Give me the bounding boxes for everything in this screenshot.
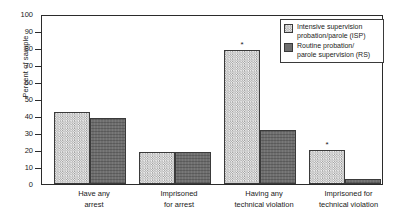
y-tick-90: 90 [0, 27, 41, 37]
legend-label-line2: parole supervision (RS) [297, 51, 370, 60]
y-tick-label: 50 [25, 95, 33, 105]
y-tick-label: 80 [25, 44, 33, 54]
y-tick-70: 70 [0, 61, 41, 71]
y-tick-30: 30 [0, 129, 41, 139]
bar-isp-2 [224, 50, 260, 184]
x-label-1: Imprisoned for arrest [134, 188, 224, 210]
legend-label-rs: Routine probation/ parole supervision (R… [297, 42, 370, 59]
bar-rs-3 [345, 179, 381, 184]
x-label-line2: for arrest [134, 199, 224, 210]
bar-isp-0 [54, 112, 90, 184]
y-tick-label: 100 [20, 10, 33, 20]
y-tick-label: 0 [29, 180, 33, 190]
legend-label-line1: Routine probation/ [297, 42, 354, 49]
legend-item-isp: Intensive supervision probation/parole (… [284, 23, 380, 40]
bar-rs-2 [260, 130, 296, 184]
significance-marker: * [309, 142, 345, 148]
x-axis-labels: Have any arrest Imprisoned for arrest Ha… [41, 188, 383, 222]
significance-marker: * [224, 42, 260, 48]
y-tick-100: 100 [0, 10, 41, 20]
bar-rs-0 [90, 118, 126, 184]
y-tick-10: 10 [0, 163, 41, 173]
x-label-line1: Imprisoned [160, 189, 197, 198]
legend-swatch-isp-icon [284, 24, 293, 33]
y-tick-label: 60 [25, 78, 33, 88]
y-tick-0: 0 [0, 180, 41, 190]
y-tick-label: 40 [25, 112, 33, 122]
bar-isp-3 [309, 150, 345, 184]
y-tick-20: 20 [0, 146, 41, 156]
x-label-3: Imprisoned for technical violation [296, 188, 398, 210]
x-label-line1: Imprisoned for [325, 189, 373, 198]
y-tick-50: 50 [0, 95, 41, 105]
x-label-line2: arrest [49, 199, 139, 210]
x-label-line1: Having any [245, 189, 283, 198]
y-tick-label: 10 [25, 163, 33, 173]
legend-item-rs: Routine probation/ parole supervision (R… [284, 42, 380, 59]
x-label-0: Have any arrest [49, 188, 139, 210]
x-label-line1: Have any [78, 189, 110, 198]
legend-label-isp: Intensive supervision probation/parole (… [297, 23, 365, 40]
legend-label-line1: Intensive supervision [297, 23, 362, 30]
x-label-line2: technical violation [296, 199, 398, 210]
y-tick-label: 70 [25, 61, 33, 71]
y-tick-label: 90 [25, 27, 33, 37]
y-tick-label: 30 [25, 129, 33, 139]
legend-swatch-rs-icon [284, 43, 293, 52]
bar-rs-1 [175, 152, 211, 184]
bar-group-1 [139, 16, 219, 184]
y-tick-80: 80 [0, 44, 41, 54]
y-tick-40: 40 [0, 112, 41, 122]
bar-group-0 [54, 16, 134, 184]
y-tick-60: 60 [0, 78, 41, 88]
legend-label-line2: probation/parole (ISP) [297, 32, 365, 41]
y-tick-label: 20 [25, 146, 33, 156]
bar-chart: Percent of sample 100 90 80 70 60 50 40 [0, 0, 398, 224]
y-axis-ticks: 100 90 80 70 60 50 40 30 [0, 0, 41, 224]
legend: Intensive supervision probation/parole (… [280, 19, 384, 63]
bar-isp-1 [139, 152, 175, 184]
